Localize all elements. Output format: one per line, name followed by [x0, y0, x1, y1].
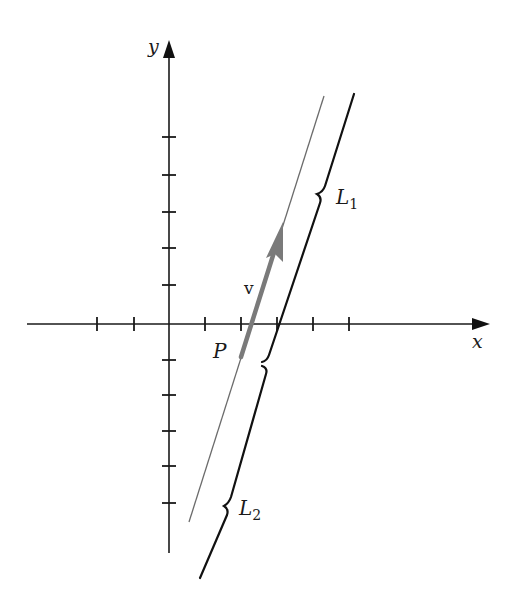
line-vector-diagram: x y L1 L2 v P — [0, 0, 517, 604]
y-axis: y — [147, 35, 176, 553]
point-p-label: P — [212, 339, 227, 363]
line-l2-brace — [200, 366, 267, 578]
vector-label: v — [243, 278, 254, 298]
y-axis-label: y — [147, 35, 159, 57]
x-axis-label: x — [472, 330, 483, 352]
x-axis-arrow-icon — [472, 318, 490, 330]
x-axis: x — [27, 317, 490, 352]
line-l1-brace — [262, 94, 354, 362]
line-l2-label: L2 — [238, 496, 261, 523]
line-l1-label: L1 — [335, 185, 358, 212]
y-axis-arrow-icon — [163, 40, 175, 58]
